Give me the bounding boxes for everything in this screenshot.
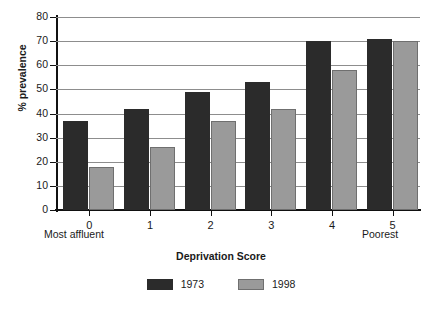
legend-item-1973: 1973 [147,278,204,290]
x-axis-tick [332,210,333,216]
legend-label-1998: 1998 [272,278,295,290]
bar-chart: % prevalence 80706050403020100 012345 Mo… [0,0,442,311]
x-axis-tick [89,210,90,216]
bar-1998-score-3 [271,109,296,210]
legend-item-1998: 1998 [238,278,295,290]
bar-1973-score-1 [124,109,149,210]
bar-1998-score-1 [150,147,175,210]
x-axis-tick [393,210,394,216]
y-axis-tick-label: 30 [16,131,48,143]
y-axis-tick-label: 70 [16,34,48,46]
x-axis-tick [271,210,272,216]
legend: 19731998 [0,278,442,290]
y-axis-tick-label: 60 [16,58,48,70]
bar-group [245,17,297,210]
x-axis-tick-label: 1 [130,219,170,231]
y-axis-tick-label: 0 [16,203,48,215]
y-axis-tick-label: 20 [16,155,48,167]
bar-group [185,17,237,210]
legend-label-1973: 1973 [181,278,204,290]
bar-1973-score-2 [185,92,210,210]
y-axis-tick-label: 50 [16,82,48,94]
bar-1973-score-5 [367,39,392,210]
x-axis-tick-label: 3 [251,219,291,231]
bar-group [306,17,358,210]
y-axis-tick [50,210,56,211]
bar-1998-score-0 [89,167,114,210]
bar-1998-score-4 [332,70,357,210]
bar-1973-score-3 [245,82,270,210]
x-axis-tick [211,210,212,216]
bar-1998-score-5 [393,41,418,210]
annotation-most-affluent: Most affluent [44,228,104,240]
bar-1973-score-4 [306,41,331,210]
legend-swatch-1973 [147,279,173,290]
x-axis-title: Deprivation Score [0,250,442,262]
bar-group [124,17,176,210]
bar-group [367,17,419,210]
y-axis-tick-label: 80 [16,10,48,22]
y-axis-tick-label: 40 [16,107,48,119]
plot-area: 80706050403020100 012345 [56,17,420,210]
x-axis-tick [150,210,151,216]
annotation-poorest: Poorest [362,228,398,240]
x-axis-tick-label: 4 [312,219,352,231]
bars-layer [56,17,420,210]
bar-1973-score-0 [63,121,88,210]
bar-group [63,17,115,210]
bar-1998-score-2 [211,121,236,210]
y-axis-tick-label: 10 [16,179,48,191]
x-axis-tick-label: 2 [191,219,231,231]
legend-swatch-1998 [238,279,264,290]
